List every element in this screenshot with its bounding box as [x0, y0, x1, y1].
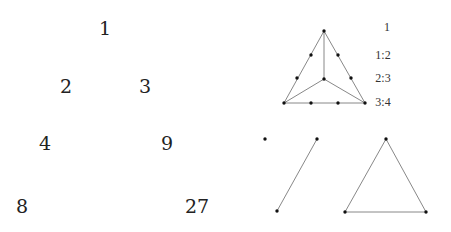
edge-dot [349, 76, 352, 79]
triangle-dot [384, 137, 387, 140]
edge-dot [336, 101, 339, 104]
center-dot [322, 77, 325, 80]
simplex-segment [275, 137, 318, 212]
simplex-triangle [343, 137, 427, 213]
ratio-label-3-4: 3:4 [375, 96, 390, 108]
edge-left [284, 31, 324, 103]
segment-line [277, 139, 317, 211]
edge-dot [309, 53, 312, 56]
vertex-dot [282, 101, 285, 104]
vertex-dot [363, 101, 366, 104]
edge-dot [336, 53, 339, 56]
segment-dot [275, 209, 278, 212]
edge-dot [309, 101, 312, 104]
triangle-outline [345, 139, 426, 212]
segment-dot [315, 137, 318, 140]
edge-dot [295, 76, 298, 79]
triangle-dot [424, 210, 427, 213]
ratio-label-1-2: 1:2 [375, 49, 390, 61]
inner-edge-left [284, 79, 324, 103]
inner-edge-right [324, 79, 365, 103]
edge-right [324, 31, 365, 103]
geometry-diagrams [0, 0, 451, 232]
ratio-label-2-3: 2:3 [375, 72, 390, 84]
point-dot [263, 137, 266, 140]
subdivided-triangle [284, 31, 365, 103]
ratio-label-1: 1 [384, 21, 390, 33]
simplex-point [263, 137, 266, 140]
vertex-dot [322, 29, 325, 32]
triangle-dot [343, 210, 346, 213]
